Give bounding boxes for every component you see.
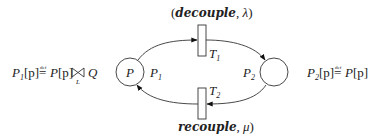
transition-t2-action: recouple, μ)	[178, 119, 254, 134]
definition-left-lhs: P1[p]	[11, 65, 39, 82]
cooperation-icon	[72, 68, 84, 77]
place-p1-side-label: P1	[149, 65, 162, 82]
petri-net-diagram: P P1 P2 T1 (decouple, λ) T2 recouple, μ)	[0, 0, 380, 139]
place-p2-circle	[260, 58, 288, 86]
transition-t2-label: T2	[209, 83, 220, 100]
transition-t1-action: (decouple, λ)	[171, 5, 252, 20]
transition-t2: T2 recouple, μ)	[178, 83, 254, 134]
transition-t1-label: T1	[209, 46, 220, 63]
place-p2-side-label: P2	[242, 65, 255, 82]
place-p1-inner-label: P	[125, 65, 134, 80]
definition-right-rhs: P[p]	[344, 65, 368, 80]
definition-right-lhs: P2[p]	[306, 65, 334, 82]
transition-t1-bar	[198, 25, 206, 56]
definition-left-equals: =	[39, 65, 46, 80]
transition-t1: T1 (decouple, λ)	[171, 5, 252, 63]
transition-t2-bar	[198, 88, 206, 119]
definition-left-rhs: P[p]	[49, 65, 73, 80]
place-p2: P2	[242, 58, 288, 86]
definition-left-rhs-other: Q	[88, 65, 98, 80]
arc-t2-to-p1	[137, 85, 198, 104]
place-p1: P P1	[116, 58, 162, 86]
definition-left: P1[p] def = P[p] L Q	[11, 65, 98, 86]
arc-p1-to-t1	[138, 40, 197, 60]
definition-right: P2[p] def = P[p]	[306, 65, 368, 82]
definition-right-equals: =	[334, 65, 341, 80]
definition-left-coop-set: L	[75, 78, 80, 86]
